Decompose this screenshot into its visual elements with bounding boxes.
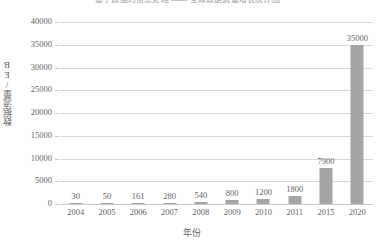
bar-value-label: 280 [163,192,176,201]
y-axis-tick-mark [55,45,59,46]
bar [226,200,239,204]
x-axis-tick-label: 2020 [349,207,366,217]
y-axis-tick-label: 40000 [6,17,52,26]
y-axis-tick-mark [55,90,59,91]
y-axis-tick-label: 20000 [6,108,52,117]
bar-value-label: 30 [71,192,80,201]
y-axis-tick-mark [55,181,59,182]
x-axis-tick-label: 2004 [67,207,84,217]
bar-value-label: 7900 [318,157,335,166]
y-axis-tick-label: 15000 [6,131,52,140]
x-axis-tick-label: 2009 [224,207,241,217]
bar-value-label: 800 [226,189,239,198]
x-axis-tick-label: 2011 [286,207,303,217]
x-axis-tick-label: 2006 [130,207,147,217]
y-axis-tick-label: 30000 [6,63,52,72]
bar-group: 540 [185,22,216,204]
bar-group: 1200 [248,22,279,204]
y-axis-tick-mark [55,68,59,69]
y-axis-tick-mark [55,159,59,160]
bar-group: 35000 [342,22,373,204]
x-axis-tick-label: 2010 [255,207,272,217]
bar-chart-figure: 基于数据的信息处理 —— 全球数据流量增长统计图 数据流量/EB 0500010… [0,0,383,248]
bar-group: 50 [91,22,122,204]
bar [351,45,364,204]
bar-value-label: 1800 [286,185,303,194]
bar-group: 161 [123,22,154,204]
bar [132,203,145,204]
bar-value-label: 35000 [347,34,368,43]
bar [194,202,207,204]
x-axis-title: 年份 [0,228,383,239]
x-axis-tick-labels: 2004200520062007200820092010201120152020 [60,207,373,221]
y-axis-tick-mark [55,136,59,137]
gridline [60,204,373,205]
y-axis-tick-label: 35000 [6,40,52,49]
y-axis-tick-label: 25000 [6,85,52,94]
cut-off-title-text: 基于数据的信息处理 —— 全球数据流量增长统计图 [95,0,280,4]
bars-layer: 305016128054080012001800790035000 [60,22,373,204]
y-axis-tick-mark [55,22,59,23]
bar-group: 1800 [279,22,310,204]
x-axis-tick-label: 2015 [318,207,335,217]
y-axis-tick-label: 10000 [6,154,52,163]
bar [163,203,176,204]
bar-group: 30 [60,22,91,204]
bar-value-label: 540 [194,191,207,200]
y-axis-tick-label: 0 [6,199,52,208]
bar-value-label: 50 [103,192,112,201]
bar-group: 800 [217,22,248,204]
y-axis-tick-mark [55,113,59,114]
x-axis-tick-label: 2007 [161,207,178,217]
bar [100,203,113,204]
bar-group: 7900 [310,22,341,204]
x-axis-tick-label: 2008 [192,207,209,217]
bar [69,203,82,204]
bar [288,196,301,204]
x-axis-tick-label: 2005 [98,207,115,217]
cut-off-title-strip: 基于数据的信息处理 —— 全球数据流量增长统计图 [0,0,383,7]
y-axis-tick-mark [55,204,59,205]
bar [320,168,333,204]
bar [257,199,270,204]
bar-group: 280 [154,22,185,204]
bar-value-label: 1200 [255,188,272,197]
bar-value-label: 161 [132,192,145,201]
y-axis-tick-label: 5000 [6,176,52,185]
